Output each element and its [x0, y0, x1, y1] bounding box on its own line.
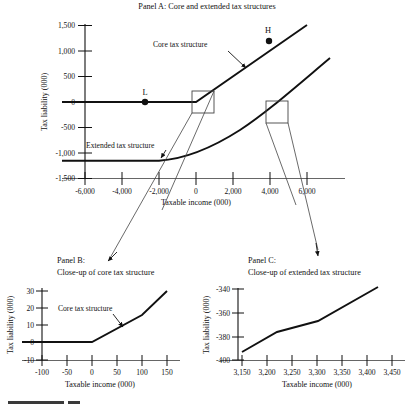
panel-a-ytick-neg1000: -1,000 — [55, 149, 75, 158]
panel-a-zoom-box-extended — [266, 101, 288, 123]
panel-a-xtick-2000: 2,000 — [224, 187, 241, 196]
figure-svg: Panel A: Core and extended tax structure… — [0, 0, 415, 409]
panel-b-core-arrow — [113, 314, 123, 327]
panel-a-x-axis-label: Taxable income (000) — [161, 198, 231, 207]
panel-a-core-arrow — [228, 51, 246, 68]
panel-a-title: Panel A: Core and extended tax structure… — [138, 2, 275, 11]
panel-a-point-H — [266, 38, 272, 44]
panel-a-xtick-neg6000: -6,000 — [75, 187, 95, 196]
panel-c-title-line2: Close-up of extended tax structure — [248, 268, 361, 277]
panel-b-xtick-50: 50 — [113, 368, 121, 377]
panel-a-xtick-neg4000: -4,000 — [112, 187, 132, 196]
panel-b-ytick-30: 30 — [26, 287, 34, 296]
panel-c-xtick-3350: 3,350 — [333, 368, 350, 377]
panel-b-title-line2: Close-up of core tax structure — [57, 268, 155, 277]
panel-b-xtick-0: 0 — [90, 368, 94, 377]
panel-a-ytick-neg500: -500 — [61, 123, 75, 132]
panel-a-core-label: Core tax structure — [153, 40, 208, 49]
panel-b-x-axis-label: Taxable income (000) — [65, 380, 135, 389]
panel-a-core-curve — [62, 25, 307, 102]
panel-a-ytick-1500: 1,500 — [58, 21, 75, 30]
panel-a-extended-label: Extended tax structure — [86, 141, 155, 150]
callout-lines — [110, 91, 318, 258]
panel-a-xtick-4000: 4,000 — [261, 187, 278, 196]
panel-b-xtick-100: 100 — [136, 368, 148, 377]
panel-c-xtick-3200: 3,200 — [258, 368, 275, 377]
panel-c-ytick-neg400: -400 — [216, 356, 230, 365]
figure-caption — [8, 401, 80, 404]
panel-a-ytick-1000: 1,000 — [58, 47, 75, 56]
panel-c: Panel C: Close-up of extended tax struct… — [202, 256, 405, 389]
panel-c-xtick-3250: 3,250 — [283, 368, 300, 377]
panel-c-extended-curve — [242, 287, 378, 352]
panel-b-ytick-20: 20 — [26, 304, 34, 313]
panel-c-xtick-3450: 3,450 — [383, 368, 400, 377]
panel-c-ytick-neg380: -380 — [216, 333, 230, 342]
panel-c-xtick-3150: 3,150 — [233, 368, 250, 377]
panel-c-ytick-neg340: -340 — [216, 285, 230, 294]
panel-a-xtick-6000: 6,000 — [298, 187, 315, 196]
panel-a-ytick-neg1500: -1,500 — [55, 174, 75, 183]
panel-b-xtick-neg100: -100 — [35, 368, 49, 377]
panel-a-point-H-label: H — [265, 26, 271, 35]
panel-c-ytick-neg360: -360 — [216, 309, 230, 318]
panel-c-xtick-3300: 3,300 — [308, 368, 325, 377]
panel-c-xtick-3400: 3,400 — [358, 368, 375, 377]
figure-container: Panel A: Core and extended tax structure… — [0, 0, 415, 409]
panel-a-point-L — [142, 99, 148, 105]
panel-b-y-axis-label: Tax liability (000) — [6, 296, 15, 354]
panel-a-extended-arrow — [161, 150, 166, 158]
panel-b-title-line1: Panel B: — [57, 256, 85, 265]
panel-c-x-axis-label: Taxable income (000) — [282, 380, 352, 389]
panel-b-ytick-10: 10 — [26, 321, 34, 330]
panel-a-point-L-label: L — [142, 88, 147, 97]
panel-b-ytick-neg10: -10 — [24, 356, 34, 365]
panel-b-xtick-neg50: -50 — [62, 368, 72, 377]
panel-c-y-axis-label: Tax liability (000) — [202, 296, 211, 354]
panel-a-xtick-neg2000: -2,000 — [149, 187, 169, 196]
panel-a-ytick-500: 500 — [64, 72, 76, 81]
panel-b-core-curve — [22, 291, 167, 342]
panel-b-core-label: Core tax structure — [58, 304, 113, 313]
panel-b: Panel B: Close-up of core tax structure … — [6, 256, 180, 389]
panel-c-title-line1: Panel C: — [248, 256, 276, 265]
panel-a-xtick-0: 0 — [194, 187, 198, 196]
panel-b-xtick-150: 150 — [161, 368, 173, 377]
panel-a: 1,500 1,000 500 0 -500 -1,000 -1,500 -6,… — [40, 21, 345, 207]
panel-a-y-axis-label: Tax liability (000) — [40, 73, 49, 131]
